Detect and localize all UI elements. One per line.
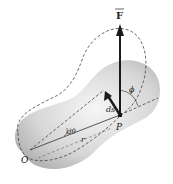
origin-label: O [21,155,29,165]
rigid-body-torque-diagram: F ds ϕ dθ r O P [0,0,173,184]
rigid-body-shape [15,60,160,169]
force-arrowhead [116,24,124,36]
force-label: F [116,10,123,21]
phi-label: ϕ [129,85,135,94]
diagram-canvas: F ds ϕ dθ r O P [0,0,173,184]
point-p-marker [118,113,122,117]
displacement-label: ds [106,105,115,114]
point-p-label: P [115,122,123,132]
dtheta-label: dθ [67,128,76,136]
